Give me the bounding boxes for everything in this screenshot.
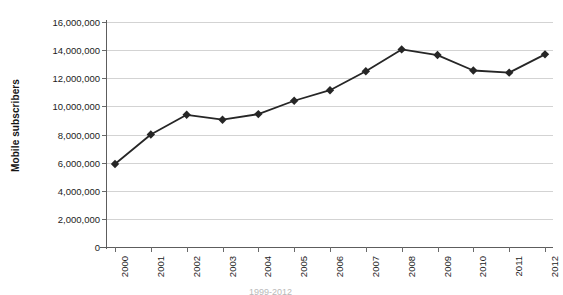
y-axis-tick-labels: 02,000,0004,000,0006,000,0008,000,00010,… [30, 14, 104, 254]
x-axis-tick-mark [151, 247, 152, 252]
y-axis-line [106, 20, 107, 249]
x-axis-tick-label: 2008 [406, 256, 417, 277]
series-polyline [115, 49, 545, 164]
x-axis-tick-mark [438, 247, 439, 252]
data-point-marker [433, 51, 441, 59]
data-point-marker [469, 66, 477, 74]
x-axis-tick-label: 2011 [513, 256, 524, 276]
x-axis-tick-mark [366, 247, 367, 252]
x-axis-tick-mark [258, 247, 259, 252]
y-axis-tick-label: 14,000,000 [52, 45, 100, 56]
data-point-marker [182, 111, 190, 119]
y-axis-tick-label: 2,000,000 [58, 213, 100, 224]
x-axis-tick-mark [187, 247, 188, 252]
y-axis-tick-label: 16,000,000 [52, 17, 100, 28]
figure-caption-clipped: 1999-2012 [249, 288, 292, 295]
y-axis-title: Mobile subscribers [0, 0, 30, 250]
x-axis-tick-mark [115, 247, 116, 252]
x-axis-tick-label: 2005 [298, 256, 309, 277]
x-axis-tick-mark [330, 247, 331, 252]
x-axis-tick-label: 2006 [334, 256, 345, 277]
data-point-marker [218, 116, 226, 124]
y-axis-tick-label: 12,000,000 [52, 73, 100, 84]
x-axis-tick-label: 2004 [262, 256, 273, 277]
x-axis-tick-label: 2012 [549, 256, 560, 277]
x-axis-tick-label: 2009 [442, 256, 453, 277]
x-axis-tick-label: 2000 [119, 256, 130, 277]
data-point-marker [397, 45, 405, 53]
x-axis-tick-label: 2002 [191, 256, 202, 277]
data-point-marker [505, 68, 513, 76]
data-point-marker [254, 110, 262, 118]
y-axis-tick-label: 6,000,000 [58, 157, 100, 168]
data-point-marker [326, 86, 334, 94]
line-chart-figure: Mobile subscribers 02,000,0004,000,0006,… [0, 0, 563, 295]
x-axis-tick-labels: 2000200120022003200420052006200720082009… [107, 247, 553, 295]
data-series-line [107, 22, 553, 247]
y-axis-title-label: Mobile subscribers [10, 79, 21, 172]
x-axis-tick-mark [223, 247, 224, 252]
data-point-marker [362, 67, 370, 75]
plot-area [107, 22, 553, 247]
x-axis-tick-mark [402, 247, 403, 252]
y-axis-tick-label: 4,000,000 [58, 185, 100, 196]
x-axis-tick-label: 2007 [370, 256, 381, 277]
x-axis-tick-label: 2001 [155, 256, 166, 277]
x-axis-tick-mark [294, 247, 295, 252]
data-point-marker [541, 50, 549, 58]
y-axis-tick-label: 10,000,000 [52, 101, 100, 112]
x-axis-tick-mark [473, 247, 474, 252]
x-axis-tick-label: 2010 [477, 256, 488, 277]
y-axis-tick-label: 8,000,000 [58, 129, 100, 140]
x-axis-tick-mark [545, 247, 546, 252]
data-point-marker [290, 97, 298, 105]
x-axis-tick-mark [509, 247, 510, 252]
x-axis-tick-label: 2003 [227, 256, 238, 277]
